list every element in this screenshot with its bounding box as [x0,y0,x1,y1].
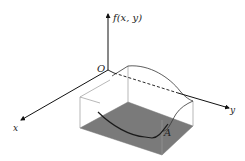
region-label: A [163,127,171,138]
x-axis-label: x [13,123,18,133]
y-axis-start [108,70,114,73]
f-axis-label: f(x, y) [112,12,142,23]
x-axis [21,70,108,120]
y-axis-hidden [114,73,178,93]
y-axis [178,93,229,108]
origin-label: O [97,63,105,74]
region-a [80,102,193,155]
diagram-canvas: f(x, y) O x y A [0,0,245,161]
y-axis-label: y [229,105,236,115]
